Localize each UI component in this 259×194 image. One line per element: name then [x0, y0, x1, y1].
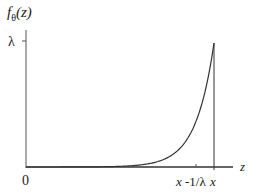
z-label: z	[240, 160, 245, 173]
origin-label: 0	[22, 174, 29, 188]
density-curve	[26, 43, 214, 167]
chart-plot	[0, 0, 259, 194]
x-label: x	[210, 175, 216, 188]
y-axis-label: fθ(z)	[7, 5, 32, 23]
x-minus-label: x -1/λ	[176, 175, 206, 188]
lambda-label: λ	[8, 35, 15, 49]
